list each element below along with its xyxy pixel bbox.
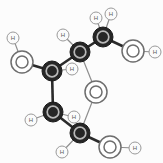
atom-h1-h-icon: H <box>7 32 19 44</box>
oxygen-highlight-ring <box>90 86 102 98</box>
carbon-sphere <box>43 102 63 122</box>
carbon-sphere <box>70 123 90 143</box>
atom-h10-h-icon: H <box>129 142 141 154</box>
atom-c1-c-icon <box>42 61 62 81</box>
atom-c3-c-icon <box>93 27 113 47</box>
hydrogen-label: H <box>11 35 15 41</box>
atom-h6-h-icon: H <box>149 46 161 58</box>
atom-h8-h-icon: H <box>68 111 80 123</box>
molecule-svg-canvas: HHHHHHHHHH <box>0 0 163 163</box>
molecule-diagram: HHHHHHHHHH <box>0 0 163 163</box>
hydrogen-label: H <box>72 114 76 120</box>
oxygen-highlight-ring <box>16 56 28 68</box>
atom-c4-c-icon <box>43 102 63 122</box>
atom-layer: HHHHHHHHHH <box>7 8 161 158</box>
atom-o4-o-icon <box>99 136 121 158</box>
oxygen-highlight-ring <box>104 141 116 153</box>
carbon-sphere <box>42 61 62 81</box>
atom-h7-h-icon: H <box>25 114 37 126</box>
hydrogen-label: H <box>109 11 113 17</box>
carbon-sphere <box>93 27 113 47</box>
atom-h5-h-icon: H <box>105 8 117 20</box>
atom-o2-o-icon <box>122 40 144 62</box>
atom-h2-h-icon: H <box>66 63 78 75</box>
hydrogen-label: H <box>61 32 65 38</box>
carbon-sphere <box>70 42 90 62</box>
oxygen-highlight-ring <box>127 45 139 57</box>
hydrogen-label: H <box>60 149 64 155</box>
atom-o1-o-icon <box>11 51 33 73</box>
hydrogen-label: H <box>153 49 157 55</box>
atom-c2-c-icon <box>70 42 90 62</box>
atom-c5-c-icon <box>70 123 90 143</box>
atom-h4-h-icon: H <box>90 12 102 24</box>
hydrogen-label: H <box>29 117 33 123</box>
atom-h9-h-icon: H <box>56 146 68 158</box>
hydrogen-label: H <box>94 15 98 21</box>
hydrogen-label: H <box>70 66 74 72</box>
hydrogen-label: H <box>133 145 137 151</box>
atom-h3-h-icon: H <box>57 29 69 41</box>
atom-o3-o-icon <box>85 81 107 103</box>
